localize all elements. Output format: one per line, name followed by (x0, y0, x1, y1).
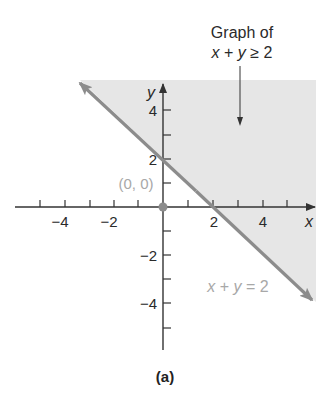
y-tick-label: −4 (140, 295, 157, 312)
annotation-relation: ≥ 2 (246, 44, 273, 61)
x-axis-label: x (304, 213, 314, 230)
origin-test-point (159, 203, 168, 212)
line-eq-rest: = 2 (242, 278, 269, 295)
line-eq-plus: + (215, 278, 233, 295)
annotation-title: Graph of (211, 24, 274, 41)
x-tick-label: 2 (210, 213, 218, 230)
inequality-graph: −4 −2 2 4 x 4 2 −2 −4 y (0, 0) Graph of … (0, 0, 331, 393)
x-tick-label: 4 (259, 213, 267, 230)
x-tick-label: −2 (100, 213, 117, 230)
figure-caption: (a) (156, 368, 174, 385)
boundary-line-label: x + y = 2 (206, 278, 268, 295)
annotation-plus: + (220, 44, 238, 61)
y-tick-label: 4 (149, 102, 157, 119)
x-tick-label: −4 (51, 213, 68, 230)
annotation-inequality: x + y ≥ 2 (211, 44, 273, 61)
y-tick-label: −2 (140, 247, 157, 264)
origin-point-label: (0, 0) (118, 175, 153, 192)
y-axis-label: y (146, 84, 156, 101)
